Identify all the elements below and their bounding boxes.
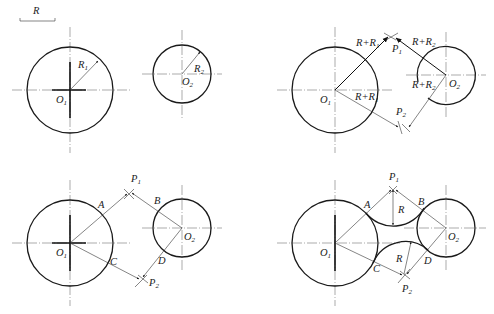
panel-tangent-points: O1 O2 P1 A B P2 C D [12, 173, 222, 306]
svg-text:A: A [97, 199, 105, 210]
svg-text:O1: O1 [320, 94, 331, 107]
svg-text:R+R2: R+R2 [411, 36, 436, 49]
svg-text:P2: P2 [401, 283, 412, 296]
svg-text:R: R [395, 253, 403, 264]
svg-text:P2: P2 [395, 106, 406, 119]
svg-text:R+R2: R+R2 [411, 79, 436, 92]
svg-text:O1: O1 [320, 247, 331, 260]
svg-text:P2: P2 [148, 277, 159, 290]
scale-bar: R [20, 5, 55, 21]
svg-text:P1: P1 [391, 43, 402, 56]
tangent-arc-construction-diagram: R R1 O1 R2 O2 O1 O2 R+R1 R+R2 P1 [0, 0, 494, 314]
svg-text:R+R1: R+R1 [355, 37, 379, 50]
svg-text:P1: P1 [130, 173, 141, 186]
svg-text:R: R [397, 204, 405, 215]
svg-text:O1: O1 [56, 247, 67, 260]
svg-text:P1: P1 [388, 171, 399, 184]
svg-text:R1: R1 [77, 59, 88, 72]
svg-text:C: C [373, 263, 381, 274]
panel-find-centers: O1 O2 R+R1 R+R2 P1 R+R1 R+R2 P2 [277, 27, 486, 153]
svg-text:O2: O2 [182, 76, 194, 89]
svg-text:B: B [418, 196, 425, 207]
panel-given: R1 O1 R2 O2 [12, 27, 222, 153]
upper-tangent-arc [366, 208, 424, 226]
svg-text:D: D [157, 255, 166, 266]
svg-text:C: C [110, 256, 118, 267]
svg-text:O2: O2 [184, 231, 196, 244]
circle-o2-partial [417, 46, 475, 104]
svg-text:R+R1: R+R1 [354, 91, 378, 104]
svg-text:D: D [423, 255, 432, 266]
svg-text:A: A [363, 199, 371, 210]
svg-text:O1: O1 [56, 94, 67, 107]
scale-label: R [32, 5, 40, 16]
panel-draw-arcs: O1 O2 P1 A B R P2 C D R [277, 171, 486, 306]
svg-text:O2: O2 [449, 78, 461, 91]
svg-text:B: B [154, 195, 161, 206]
svg-text:O2: O2 [448, 231, 460, 244]
